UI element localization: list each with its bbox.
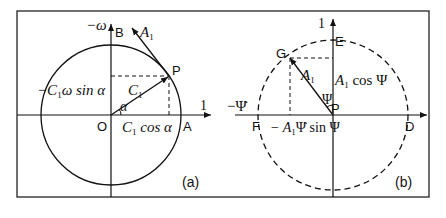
figure: −ω B A1 P C1 α −C1ω sin α 1 O C1 cos α A… <box>0 0 446 218</box>
label-A1-b: A1 <box>300 67 315 85</box>
panel-b: 1 E G A1 A1 cos Ψ Ψ P −Ψ̇ F − A1Ψ̇ sin Ψ… <box>227 16 427 197</box>
label-G: G <box>276 46 286 61</box>
label-A1-a: A1 <box>139 24 154 42</box>
label-E: E <box>335 34 344 49</box>
label-F: F <box>252 119 260 134</box>
label-vert-proj-a: −C1ω sin α <box>37 82 106 100</box>
caption-a: (a) <box>182 174 199 190</box>
panel-a: −ω B A1 P C1 α −C1ω sin α 1 O C1 cos α A… <box>17 17 211 197</box>
label-alpha: α <box>120 99 128 114</box>
label-vert-proj-b: A1 cos Ψ <box>334 72 388 90</box>
label-P-a: P <box>172 63 181 78</box>
label-B: B <box>115 25 124 40</box>
label-neg-psi-dot: −Ψ̇ <box>227 98 248 114</box>
label-horiz-proj-b: − A1Ψ̇ sin Ψ <box>270 120 340 137</box>
label-D: D <box>405 119 414 134</box>
label-P-b: P <box>331 101 340 116</box>
label-O: O <box>97 119 107 134</box>
figure-frame <box>17 11 429 197</box>
label-C1: C1 <box>128 82 143 100</box>
label-x-axis-1: 1 <box>200 98 207 113</box>
label-neg-omega: −ω <box>86 17 107 33</box>
label-y-axis-1: 1 <box>318 16 325 31</box>
caption-b: (b) <box>395 174 412 190</box>
label-horiz-proj-a: C1 cos α <box>122 119 173 137</box>
label-A: A <box>183 119 192 134</box>
